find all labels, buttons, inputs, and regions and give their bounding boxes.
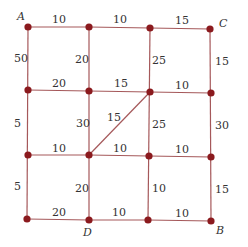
weight-v-c3-r2: 15 xyxy=(215,183,229,196)
weight-h-r0-c1: 10 xyxy=(113,13,127,26)
weight-v-c2-r2: 10 xyxy=(152,182,166,195)
edge-h-r0-c2 xyxy=(150,28,210,29)
weight-h-r3-c1: 10 xyxy=(112,206,126,219)
edge-h-r3-c0 xyxy=(27,219,89,220)
weight-h-r2-c0: 10 xyxy=(52,142,66,155)
edge-v-c3 xyxy=(210,29,211,221)
node-label-D: D xyxy=(82,226,92,239)
weight-h-r1-c0: 20 xyxy=(52,77,66,90)
node-r3-c2[interactable] xyxy=(144,216,151,223)
weight-v-c3-r1: 30 xyxy=(215,119,229,132)
edge-h-r1-c2 xyxy=(150,92,211,93)
weight-h-r2-c2: 10 xyxy=(175,143,189,156)
node-r2-c1[interactable] xyxy=(85,151,92,158)
node-r0-c2[interactable] xyxy=(146,24,153,31)
weight-h-r1-c1: 15 xyxy=(114,77,128,90)
weight-h-r0-c2: 15 xyxy=(175,14,189,27)
weight-h-r2-c1: 10 xyxy=(113,142,127,155)
graph-diagram: A C D B 10 10 15 20 15 10 10 10 10 20 10… xyxy=(0,0,248,247)
edge-h-r2-c2 xyxy=(149,156,211,157)
node-A[interactable] xyxy=(24,23,31,30)
node-C[interactable] xyxy=(206,25,213,32)
node-B[interactable] xyxy=(207,217,214,224)
weight-v-c1-r1: 30 xyxy=(76,117,90,130)
node-r2-c2[interactable] xyxy=(145,152,152,159)
edge-h-r1-c1 xyxy=(89,91,150,92)
edge-v-c2 xyxy=(148,28,150,220)
weight-h-r3-c2: 10 xyxy=(175,207,189,220)
weight-v-c1-r2: 20 xyxy=(75,182,89,195)
node-r1-c1[interactable] xyxy=(85,87,92,94)
node-D[interactable] xyxy=(85,216,92,223)
node-r1-c0[interactable] xyxy=(24,86,31,93)
edge-h-r3-c2 xyxy=(148,220,211,221)
weight-v-c2-r1: 25 xyxy=(152,118,166,131)
node-label-A: A xyxy=(16,10,25,23)
node-label-C: C xyxy=(219,17,228,30)
weight-v-c0-r1: 5 xyxy=(14,117,21,130)
edge-h-r0-c1 xyxy=(89,27,150,28)
weight-v-c0-r0: 50 xyxy=(14,52,28,65)
node-r1-c3[interactable] xyxy=(207,89,214,96)
weight-v-c1-r0: 20 xyxy=(75,53,89,66)
weight-v-c3-r0: 15 xyxy=(215,55,229,68)
edge-h-r2-c1 xyxy=(89,155,149,156)
node-r1-c2[interactable] xyxy=(146,88,153,95)
weight-h-r3-c0: 20 xyxy=(52,206,66,219)
node-r3-c0[interactable] xyxy=(23,215,30,222)
edge-h-r1-c0 xyxy=(28,90,89,91)
node-r2-c0[interactable] xyxy=(24,151,31,158)
weight-v-c0-r2: 5 xyxy=(14,180,21,193)
weight-h-r0-c0: 10 xyxy=(52,13,66,26)
node-r0-c1[interactable] xyxy=(85,23,92,30)
weight-diagonal: 15 xyxy=(107,111,121,124)
weight-h-r1-c2: 10 xyxy=(175,79,189,92)
weight-v-c2-r0: 25 xyxy=(152,54,166,67)
node-label-B: B xyxy=(215,224,224,237)
node-r2-c3[interactable] xyxy=(207,153,214,160)
